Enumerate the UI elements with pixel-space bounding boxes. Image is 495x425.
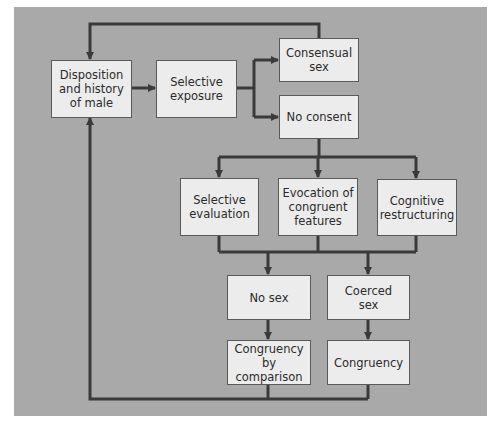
node-selective-evaluation: Selective evaluation [180, 178, 259, 236]
node-consensual-sex: Consensual sex [279, 38, 359, 82]
node-no-consent: No consent [279, 95, 359, 139]
node-congruency-by-comparison: Congruency by comparison [227, 340, 311, 385]
node-evocation: Evocation of congruent features [278, 178, 358, 236]
node-disposition: Disposition and history of male [51, 60, 132, 118]
node-no-sex: No sex [227, 275, 311, 320]
node-cognitive-restructuring: Cognitive restructuring [377, 179, 457, 236]
node-selective-exposure: Selective exposure [156, 60, 237, 118]
node-coerced-sex: Coerced sex [327, 275, 410, 320]
node-congruency: Congruency [327, 340, 410, 385]
